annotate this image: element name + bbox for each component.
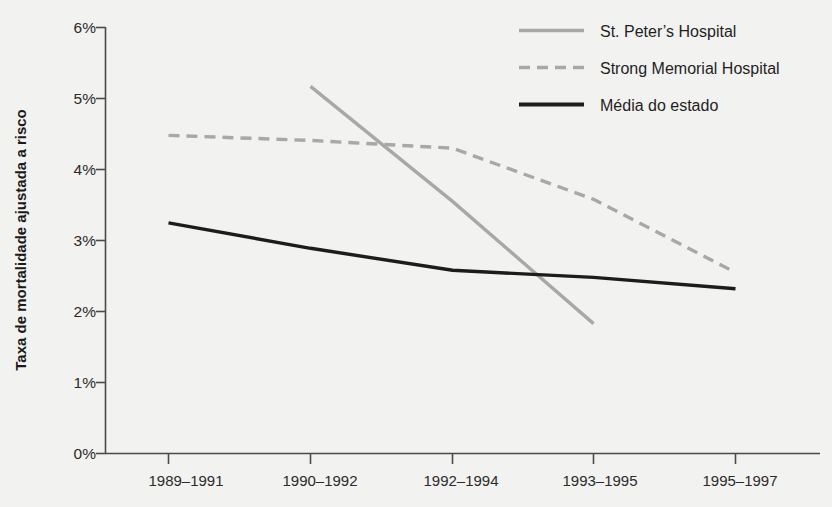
legend-label-strong-memorial: Strong Memorial Hospital: [600, 60, 780, 77]
y-axis-tick-labels: 6% 5% 4% 3% 2% 1% 0%: [74, 19, 97, 462]
y-tick-label: 0%: [74, 445, 97, 462]
x-axis-tick-labels: 1989–1991 1990–1992 1992–1994 1993–1995 …: [148, 472, 777, 489]
legend: St. Peter’s Hospital Strong Memorial Hos…: [519, 23, 780, 114]
y-tick-label: 2%: [74, 303, 97, 320]
series-line: [169, 135, 736, 272]
x-tick-label: 1990–1992: [282, 472, 357, 489]
data-series-layer: [169, 86, 736, 323]
mortality-line-chart: Taxa de mortalidade ajustada a risco 6% …: [0, 0, 832, 507]
x-axis: [105, 454, 820, 465]
y-tick-label: 3%: [74, 232, 97, 249]
x-tick-label: 1993–1995: [562, 472, 637, 489]
y-tick-label: 4%: [74, 161, 97, 178]
y-axis-title: Taxa de mortalidade ajustada a risco: [12, 109, 29, 371]
y-tick-label: 1%: [74, 374, 97, 391]
x-tick-label: 1995–1997: [702, 472, 777, 489]
series-line: [169, 223, 736, 289]
legend-label-st-peters: St. Peter’s Hospital: [600, 23, 736, 40]
y-tick-label: 6%: [74, 19, 97, 36]
legend-label-state-average: Média do estado: [600, 97, 718, 114]
chart-container: Taxa de mortalidade ajustada a risco 6% …: [0, 0, 832, 507]
y-axis: [96, 27, 106, 454]
x-tick-label: 1992–1994: [423, 472, 498, 489]
y-tick-label: 5%: [74, 90, 97, 107]
series-line: [311, 86, 594, 323]
x-tick-label: 1989–1991: [148, 472, 223, 489]
